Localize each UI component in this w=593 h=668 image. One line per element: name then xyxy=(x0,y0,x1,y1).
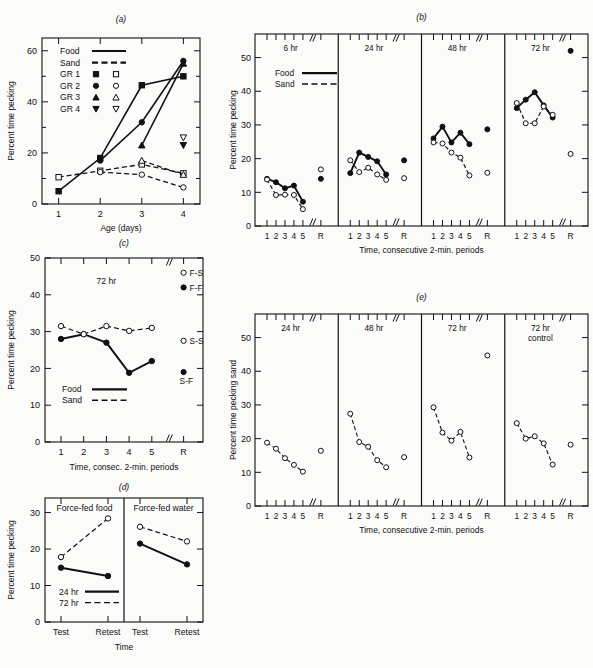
y-tick-label: 30 xyxy=(241,120,251,130)
marker-circle-open xyxy=(98,169,103,174)
panel-e-ylabel: Percent time pecking sand xyxy=(228,360,238,460)
y-tick-label: 0 xyxy=(246,501,251,511)
x-tick-label: 4 xyxy=(458,511,463,521)
marker-circle-filled xyxy=(126,370,131,375)
marker-circle-open xyxy=(126,328,131,333)
subpanel-header: 72 hr xyxy=(531,43,550,53)
x-tick-label: 2 xyxy=(274,511,279,521)
y-tick-label: 0 xyxy=(35,617,40,627)
series-line-food xyxy=(517,92,553,117)
marker-circle-filled xyxy=(458,130,463,135)
x-tick-label: 5 xyxy=(301,511,306,521)
marker-circle-open xyxy=(532,434,537,439)
axis-break-bottom xyxy=(169,435,172,442)
subpanel-header: Force-fed food xyxy=(57,503,113,513)
marker-circle-open xyxy=(149,325,154,330)
panel-c-frame xyxy=(45,258,203,442)
legend-label-72hr: 72 hr xyxy=(59,598,79,608)
r-point-label: S-S xyxy=(190,336,204,346)
marker-circle-open xyxy=(58,323,63,328)
marker-triangle-down-filled xyxy=(93,106,99,112)
marker-circle-open xyxy=(273,193,278,198)
x-tick-label: 5 xyxy=(550,511,555,521)
x-tick-label: 5 xyxy=(149,447,154,457)
y-tick-label: 10 xyxy=(241,188,251,198)
marker-square-filled xyxy=(56,189,61,194)
axis-break-bottom xyxy=(476,219,479,226)
x-tick-label: 2 xyxy=(440,231,445,241)
y-tick-label: 20 xyxy=(241,154,251,164)
r-point-label: F-F xyxy=(190,283,203,293)
marker-circle-open xyxy=(550,112,555,117)
marker-triangle-up-open xyxy=(139,157,145,163)
series-line-72hr xyxy=(140,527,187,542)
marker-square-filled xyxy=(93,72,98,77)
x-tick-label: R xyxy=(568,231,574,241)
x-tick-label: Test xyxy=(53,627,69,637)
marker-circle-open xyxy=(318,448,323,453)
marker-circle-open xyxy=(81,331,86,336)
subpanel-header: 24 hr xyxy=(281,323,300,333)
marker-circle-filled xyxy=(58,336,63,341)
axis-break-bottom xyxy=(310,499,313,506)
marker-circle-filled xyxy=(568,48,573,53)
panel-c-xlabel: Time, consec. 2-min. periods xyxy=(70,462,179,472)
r-point-label: S-F xyxy=(180,376,193,386)
x-tick-label: 2 xyxy=(357,231,362,241)
marker-circle-open xyxy=(265,440,270,445)
axis-break-top xyxy=(560,315,563,322)
panel-e: (e)0102030405024 hr12345R48 hr12345R72 h… xyxy=(228,288,593,550)
x-tick-label: 2 xyxy=(357,511,362,521)
marker-circle-filled xyxy=(366,154,371,159)
panel-b: (b)010203040506 hr12345R24 hr12345R48 hr… xyxy=(228,8,593,270)
axis-break-top xyxy=(393,315,396,322)
x-tick-label: 1 xyxy=(431,511,436,521)
legend-label-food: Food xyxy=(60,46,80,56)
x-tick-label: 4 xyxy=(375,231,380,241)
x-tick-label: 3 xyxy=(366,511,371,521)
marker-circle-open xyxy=(58,554,63,559)
marker-circle-filled xyxy=(523,97,528,102)
x-tick-label: 4 xyxy=(292,511,297,521)
marker-circle-filled xyxy=(291,183,296,188)
x-tick-label: 3 xyxy=(449,231,454,241)
legend-label-sand: Sand xyxy=(60,58,80,68)
x-tick-label: 3 xyxy=(104,447,109,457)
x-tick-label: 4 xyxy=(127,447,132,457)
marker-triangle-up-filled xyxy=(139,142,145,148)
y-tick-label: 40 xyxy=(241,86,251,96)
axis-break-top xyxy=(560,35,563,42)
marker-circle-open xyxy=(440,141,445,146)
axis-break-bottom xyxy=(479,499,482,506)
series-line-sand xyxy=(517,103,553,123)
subpanel-header: 48 hr xyxy=(448,43,467,53)
x-tick-label: 2 xyxy=(523,231,528,241)
x-tick-label: 3 xyxy=(283,511,288,521)
marker-circle-open xyxy=(568,151,573,156)
marker-circle-filled xyxy=(300,199,305,204)
marker-circle-open xyxy=(184,539,189,544)
panel-a-xlabel: Age (days) xyxy=(100,223,141,233)
marker-circle-filled xyxy=(402,158,407,163)
subpanel-header: 48 hr xyxy=(364,323,383,333)
axis-break-top xyxy=(396,315,399,322)
series-line-sand xyxy=(434,407,470,457)
subpanel-header: 6 hr xyxy=(283,43,298,53)
marker-circle-open xyxy=(291,462,296,467)
marker-circle-open xyxy=(282,456,287,461)
y-tick-label: 50 xyxy=(241,53,251,63)
marker-circle-open xyxy=(181,270,186,275)
axis-break-bottom xyxy=(560,499,563,506)
panel-e-title: (e) xyxy=(416,292,427,302)
x-tick-label: R xyxy=(484,511,490,521)
marker-circle-filled xyxy=(348,171,353,176)
legend-label-food: Food xyxy=(275,68,294,78)
axis-break-top xyxy=(476,35,479,42)
legend-label-24hr: 24 hr xyxy=(59,587,79,597)
marker-circle-open xyxy=(402,455,407,460)
panel-a-title: (a) xyxy=(116,14,127,24)
marker-circle-filled xyxy=(58,565,63,570)
marker-circle-open xyxy=(113,83,118,88)
series-line-sand xyxy=(350,414,386,468)
panel-a: (a)02040601234Age (days)Percent time pec… xyxy=(0,8,230,238)
